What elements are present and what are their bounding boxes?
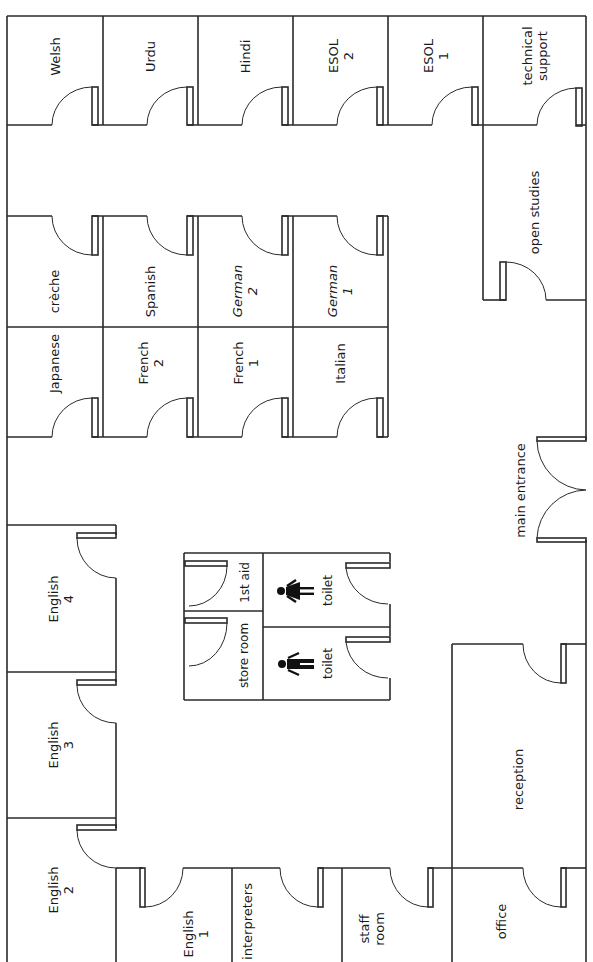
toilet-block-walls	[184, 553, 390, 700]
reception-walls	[452, 644, 586, 868]
main-entrance-doors	[537, 437, 586, 542]
floor-plan	[0, 0, 593, 962]
female-figure-icon	[277, 580, 314, 602]
english-rooms-walls	[7, 525, 116, 962]
outer-walls	[7, 16, 586, 962]
middle-block-walls	[7, 216, 388, 437]
open-studies-walls	[483, 125, 586, 300]
top-row-walls	[7, 16, 586, 125]
top-row-doors	[52, 87, 582, 126]
bottom-block-walls	[116, 868, 586, 962]
male-figure-icon	[278, 653, 314, 675]
